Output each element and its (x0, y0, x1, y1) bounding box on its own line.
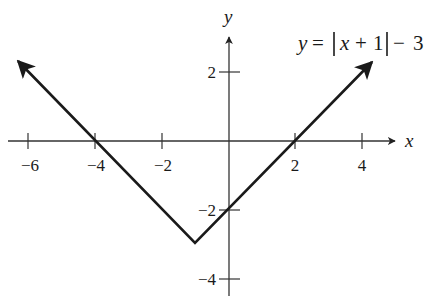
svg-text:y: y (296, 31, 308, 55)
svg-text:+: + (355, 31, 367, 55)
y-tick-label: −2 (198, 201, 216, 220)
y-tick-label: −4 (198, 270, 217, 289)
y-axis-label: y (222, 6, 233, 27)
x-tick-label: 4 (358, 156, 367, 175)
y-tick-label: 2 (208, 63, 217, 82)
equation-label: y = x + 1 − 3 (296, 31, 424, 56)
svg-text:x: x (339, 31, 350, 55)
svg-text:=: = (312, 31, 324, 55)
x-tick-label: 2 (291, 156, 300, 175)
svg-text:1: 1 (373, 31, 384, 55)
x-tick-label: −6 (21, 156, 39, 175)
function-graph-line (18, 61, 372, 243)
graph-canvas: −6 −4 −2 2 4 2 −2 −4 x y y = x + 1 − 3 (0, 0, 438, 297)
svg-text:−: − (393, 31, 405, 55)
x-tick-label: −2 (154, 156, 172, 175)
svg-text:3: 3 (413, 31, 424, 55)
x-tick-label: −4 (87, 156, 106, 175)
x-axis-label: x (404, 130, 414, 151)
